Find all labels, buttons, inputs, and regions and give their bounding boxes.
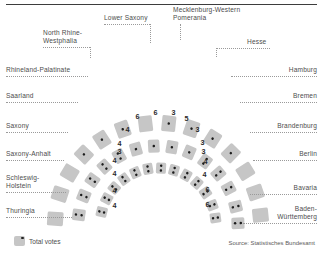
leader-stem <box>150 24 151 43</box>
leader-stem <box>90 47 91 58</box>
label-line: Saarland <box>6 92 34 100</box>
vote-count-number: 4 <box>110 186 119 195</box>
state-label-hamburg: Hamburg <box>289 66 317 74</box>
label-line: Württemberg <box>277 213 317 221</box>
vote-count-number: 6 <box>151 108 160 117</box>
legend: Total votes <box>14 236 61 246</box>
state-label-schleswig-holstein: Schleswig-Holstein <box>6 174 39 189</box>
seat-block <box>72 208 86 221</box>
leader-line <box>6 132 68 133</box>
label-line: Bremen <box>293 92 317 100</box>
seat-block <box>220 143 241 164</box>
label-line: Westphalia <box>43 37 82 45</box>
label-line: Mecklenburg-Western <box>173 6 240 14</box>
state-label-lower-saxony: Lower Saxony <box>104 14 148 22</box>
label-line: Saxony-Anhalt <box>6 150 51 158</box>
state-label-saarland: Saarland <box>6 92 34 100</box>
label-line: Rhineland-Palatinate <box>6 66 70 74</box>
state-label-brandenburg: Brandenburg <box>277 122 317 130</box>
vote-count-number: 3 <box>193 125 202 134</box>
label-line: Hamburg <box>289 66 317 74</box>
state-label-saxony: Saxony <box>6 122 29 130</box>
leader-line <box>243 223 317 224</box>
leader-line <box>6 102 78 103</box>
label-line: Brandenburg <box>277 122 317 130</box>
seat-block <box>168 164 181 177</box>
seat-block <box>142 163 154 176</box>
state-label-bavaria: Bavaria <box>294 184 317 192</box>
seat-block <box>210 165 227 182</box>
leader-line <box>231 76 317 77</box>
leader-line <box>43 47 90 48</box>
leader-line <box>240 102 317 103</box>
seat-block <box>252 207 269 223</box>
leader-line <box>6 76 88 77</box>
leader-stem <box>216 48 217 57</box>
leader-line <box>104 24 150 25</box>
vote-count-number: 4 <box>110 201 119 210</box>
total-votes-swatch-icon <box>14 236 25 246</box>
seat-block <box>95 206 108 218</box>
label-line: Pomerania <box>173 14 240 22</box>
vote-count-number: 5 <box>182 114 191 123</box>
label-line: Lower Saxony <box>104 14 148 22</box>
leader-line <box>253 160 317 161</box>
vote-count-number: 6 <box>133 112 142 121</box>
seat-block <box>148 139 160 153</box>
state-label-saxony-anhalt: Saxony-Anhalt <box>6 150 51 158</box>
label-line: North Rhine- <box>43 29 82 37</box>
seat-block <box>47 211 64 226</box>
leader-line <box>6 217 72 218</box>
seat-block <box>76 188 92 204</box>
vote-count-number: 3 <box>199 147 208 156</box>
vote-count-number: 4 <box>200 170 209 179</box>
source-note: Source: Statistisches Bundesamt <box>229 240 315 246</box>
seat-block <box>220 180 237 196</box>
label-line: Thuringia <box>6 207 35 215</box>
state-label-north-rhine-westphalia: North Rhine-Westphalia <box>43 29 82 44</box>
state-label-thuringia: Thuringia <box>6 207 35 215</box>
state-label-berlin: Berlin <box>299 150 317 158</box>
label-line: Holstein <box>6 182 39 190</box>
label-line: Saxony <box>6 122 29 130</box>
seat-block <box>129 166 143 180</box>
state-label-baden-w-rttemberg: Baden-Württemberg <box>277 205 317 220</box>
infographic-canvas: Rhineland-PalatinateSaarlandSaxonySaxony… <box>0 0 323 257</box>
seat-block <box>84 172 101 189</box>
state-label-bremen: Bremen <box>293 92 317 100</box>
leader-line <box>216 48 270 49</box>
seat-block <box>50 185 70 203</box>
state-label-rhineland-palatinate: Rhineland-Palatinate <box>6 66 70 74</box>
legend-label: Total votes <box>29 238 61 245</box>
label-line: Schleswig- <box>6 174 39 182</box>
label-line: Bavaria <box>294 184 317 192</box>
seat-block <box>235 161 256 181</box>
vote-count-number: 4 <box>110 169 119 178</box>
vote-count-number: 4 <box>201 157 210 166</box>
leader-line <box>6 192 66 193</box>
vote-count-number: 3 <box>169 108 178 117</box>
vote-count-number: 3 <box>198 138 207 147</box>
vote-count-number: 6 <box>203 200 212 209</box>
state-label-hesse: Hesse <box>247 38 266 46</box>
seat-block <box>228 199 243 213</box>
leader-line <box>250 194 317 195</box>
label-line: Berlin <box>299 150 317 158</box>
seat-block <box>161 115 177 132</box>
leader-line <box>6 160 64 161</box>
leader-line <box>250 132 317 133</box>
vote-count-number: 6 <box>203 185 212 194</box>
state-label-mecklenburg-western-pomerania: Mecklenburg-WesternPomerania <box>173 6 240 21</box>
vote-count-number: 4 <box>123 125 132 134</box>
label-line: Baden- <box>277 205 317 213</box>
seat-block <box>246 183 266 201</box>
seat-block <box>209 212 221 223</box>
seat-block <box>156 162 167 174</box>
seat-block <box>181 144 197 160</box>
leader-stem <box>180 24 181 40</box>
label-line: Hesse <box>247 38 266 46</box>
seat-block <box>59 163 80 183</box>
vote-count-number: 4 <box>110 156 119 165</box>
seat-block <box>129 141 144 157</box>
seat-block <box>92 129 112 150</box>
